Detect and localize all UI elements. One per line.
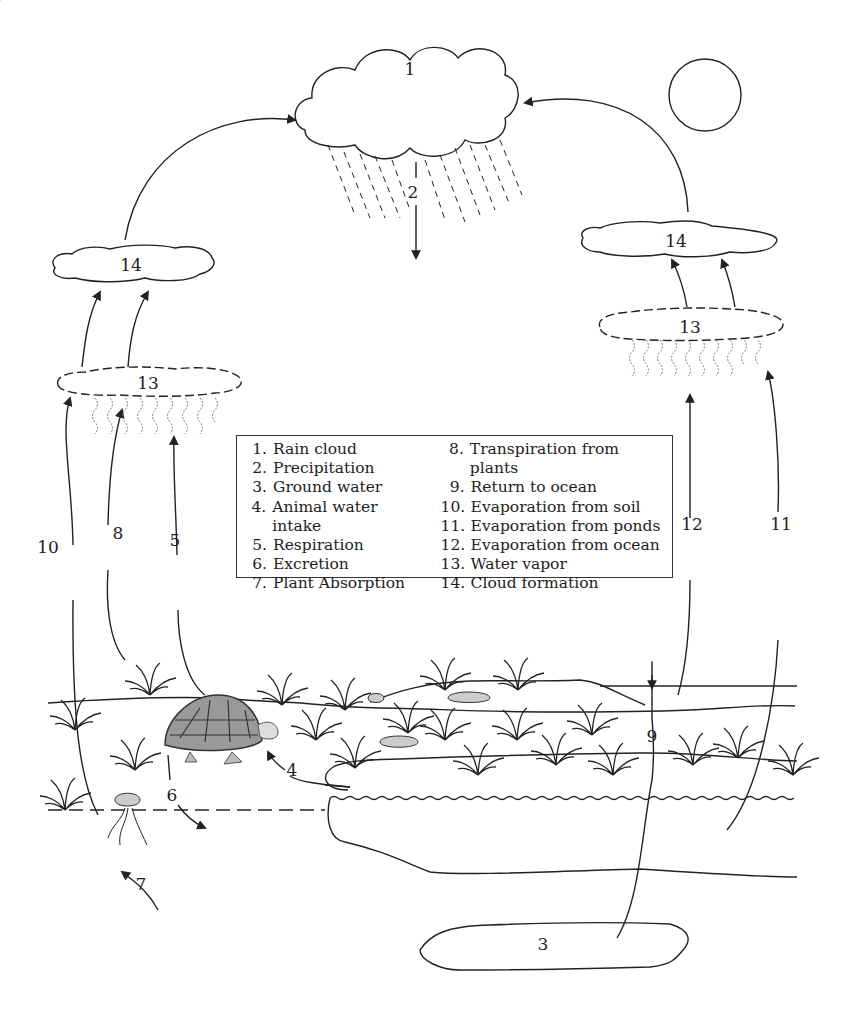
- label-animal-water-intake: 4: [287, 760, 298, 780]
- sun: [669, 59, 741, 131]
- label-water-vapor-right: 13: [679, 317, 701, 337]
- label-precipitation: 2: [408, 182, 419, 202]
- label-evap-soil: 10: [37, 537, 59, 557]
- label-plant-absorption: 7: [136, 874, 147, 894]
- legend-item: 9.Return to ocean: [441, 478, 666, 497]
- legend-right-column: 8.Transpiration from plants 9.Return to …: [441, 440, 666, 573]
- legend-left-column: 1.Rain cloud 2.Precipitation 3.Ground wa…: [243, 440, 427, 573]
- legend-item: 6.Excretion: [243, 555, 427, 574]
- label-ground-water: 3: [538, 934, 549, 954]
- legend-item: 11.Evaporation from ponds: [441, 517, 666, 536]
- label-rain-cloud: 1: [405, 59, 416, 79]
- label-return-to-ocean: 9: [647, 726, 658, 746]
- label-cloud-formation-right: 14: [665, 231, 687, 251]
- label-evap-ocean: 12: [681, 514, 703, 534]
- label-cloud-formation-left: 14: [120, 255, 142, 275]
- legend: 1.Rain cloud 2.Precipitation 3.Ground wa…: [236, 435, 673, 578]
- label-water-vapor-left: 13: [137, 373, 159, 393]
- label-excretion: 6: [167, 785, 178, 805]
- legend-item: 10.Evaporation from soil: [441, 498, 666, 517]
- legend-item: 2.Precipitation: [243, 459, 427, 478]
- legend-item: 4.Animal water intake: [243, 498, 427, 536]
- label-respiration: 5: [170, 530, 181, 550]
- legend-item: 1.Rain cloud: [243, 440, 427, 459]
- legend-item: 5.Respiration: [243, 536, 427, 555]
- legend-item: 13.Water vapor: [441, 555, 666, 574]
- legend-item: 7.Plant Absorption: [243, 574, 427, 593]
- legend-item: 14.Cloud formation: [441, 574, 666, 593]
- label-transpiration: 8: [113, 523, 124, 543]
- tortoise: [165, 695, 278, 764]
- label-evap-ponds: 11: [770, 514, 792, 534]
- legend-item: 12.Evaporation from ocean: [441, 536, 666, 555]
- ground-water: [420, 923, 688, 970]
- legend-item: 8.Transpiration from plants: [441, 440, 666, 478]
- legend-item: 3.Ground water: [243, 478, 427, 497]
